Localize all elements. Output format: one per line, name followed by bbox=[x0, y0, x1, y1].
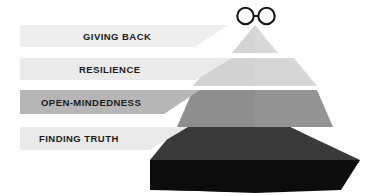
level-label-giving-back: GIVING BACK bbox=[83, 31, 151, 42]
level-label-resilience: RESILIENCE bbox=[79, 64, 141, 75]
level-label-finding-truth: FINDING TRUTH bbox=[39, 133, 119, 144]
pyramid-tier-3 bbox=[177, 90, 333, 127]
pyramid-tier-1 bbox=[232, 25, 278, 53]
pyramid-infographic: GIVING BACK RESILIENCE OPEN-MINDEDNESS F… bbox=[0, 0, 374, 196]
pyramid-tier-base-top-face-2 bbox=[150, 127, 360, 160]
level-banner-resilience[interactable]: RESILIENCE bbox=[20, 58, 232, 80]
pyramid-tier-base bbox=[150, 127, 360, 193]
pyramid-tier-base-body bbox=[150, 160, 360, 193]
pyramid-tier-1-left-face bbox=[232, 25, 255, 53]
pyramid-tier-3-right-face bbox=[255, 90, 333, 127]
pyramid-tier-2-right-face bbox=[255, 58, 317, 86]
level-banner-giving-back[interactable]: GIVING BACK bbox=[20, 25, 228, 47]
pyramid-tier-1-right-face bbox=[255, 25, 278, 53]
infinity-symbol-container bbox=[233, 4, 279, 28]
level-label-open-mindedness: OPEN-MINDEDNESS bbox=[41, 97, 141, 108]
infinity-icon bbox=[233, 4, 279, 28]
